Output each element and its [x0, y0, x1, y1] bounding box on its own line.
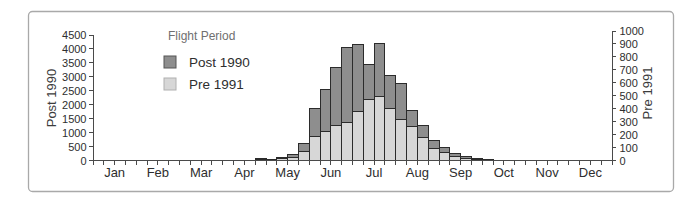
month-label: Jun	[320, 165, 341, 180]
bar-pre-1991	[407, 126, 418, 160]
right-tick-label: 400	[620, 103, 638, 115]
month-label: Dec	[579, 165, 603, 180]
month-label: Oct	[494, 165, 515, 180]
bar-pre-1991	[428, 149, 439, 161]
month-label: Sep	[449, 165, 472, 180]
bar-pre-1991	[298, 151, 309, 160]
month-label: Mar	[190, 165, 213, 180]
right-tick-label: 1000	[620, 25, 644, 37]
left-tick-label: 2000	[62, 99, 86, 111]
month-label: May	[275, 165, 300, 180]
bar-pre-1991	[396, 120, 407, 161]
left-tick-label: 3000	[62, 71, 86, 83]
left-axis-title: Post 1990	[44, 69, 59, 128]
right-tick-label: 600	[620, 77, 638, 89]
bar-pre-1991	[342, 123, 353, 161]
right-tick-label: 0	[620, 155, 626, 167]
legend-swatch-post-1990	[164, 56, 176, 68]
flight-period-histogram: 0500100015002000250030003500400045000100…	[0, 0, 696, 202]
left-tick-label: 1500	[62, 113, 86, 125]
left-tick-label: 0	[80, 155, 86, 167]
bar-pre-1991	[450, 157, 461, 161]
month-label: Feb	[147, 165, 169, 180]
right-tick-label: 900	[620, 38, 638, 50]
bar-pre-1991	[374, 96, 385, 160]
right-tick-label: 800	[620, 51, 638, 63]
month-label: Jan	[104, 165, 125, 180]
bar-pre-1991	[331, 126, 342, 161]
legend-swatch-pre-1991	[164, 78, 176, 90]
legend-title: Flight Period	[168, 29, 235, 43]
bar-pre-1991	[417, 138, 428, 161]
month-label: Apr	[234, 165, 255, 180]
right-tick-label: 300	[620, 116, 638, 128]
month-label: Nov	[536, 165, 560, 180]
left-tick-label: 3500	[62, 57, 86, 69]
month-label: Aug	[406, 165, 429, 180]
right-tick-label: 500	[620, 90, 638, 102]
legend-label-post-1990: Post 1990	[189, 55, 250, 70]
bar-pre-1991	[385, 108, 396, 160]
left-tick-label: 4500	[62, 29, 86, 41]
bar-pre-1991	[309, 137, 320, 161]
flight-period-chart: 0500100015002000250030003500400045000100…	[0, 0, 696, 202]
month-label: Jul	[366, 165, 383, 180]
right-axis-title: Pre 1991	[640, 67, 655, 120]
right-tick-label: 200	[620, 129, 638, 141]
left-tick-label: 2500	[62, 85, 86, 97]
right-tick-label: 700	[620, 64, 638, 76]
bar-pre-1991	[363, 100, 374, 161]
left-tick-label: 500	[68, 141, 86, 153]
right-tick-label: 100	[620, 142, 638, 154]
bar-pre-1991	[439, 152, 450, 160]
bar-pre-1991	[353, 112, 364, 161]
left-tick-label: 1000	[62, 127, 86, 139]
left-tick-label: 4000	[62, 43, 86, 55]
legend-label-pre-1991: Pre 1991	[189, 77, 244, 92]
bar-pre-1991	[320, 131, 331, 160]
